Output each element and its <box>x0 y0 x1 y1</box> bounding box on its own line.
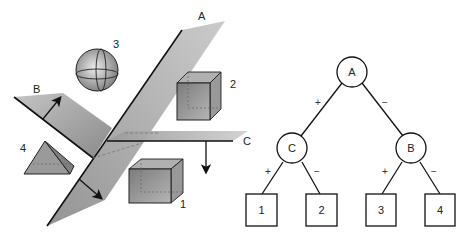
tree-node-c: C <box>277 133 307 163</box>
pyramid-object-4: 4 <box>20 141 74 174</box>
tree-leaf-4: 4 <box>425 194 455 226</box>
edge-b-4 <box>420 162 440 194</box>
edge-sign-b-3: + <box>382 166 388 177</box>
tree-leaf-2-label: 2 <box>318 204 324 216</box>
tree-node-a: A <box>337 57 367 87</box>
tree-node-a-label: A <box>348 66 356 78</box>
plane-a-label: A <box>198 10 206 22</box>
tree-leaf-1: 1 <box>246 194 277 226</box>
plane-c-label: C <box>243 135 251 147</box>
tree-leaf-3: 3 <box>366 194 396 226</box>
plane-b-label: B <box>33 83 40 95</box>
plane-b: B <box>14 83 112 158</box>
edge-sign-c-2: − <box>314 166 320 177</box>
edge-a-c <box>301 83 342 136</box>
object-2-label: 2 <box>230 78 236 90</box>
tree-node-c-label: C <box>288 142 296 154</box>
object-3-label: 3 <box>113 38 119 50</box>
tree-leaf-4-label: 4 <box>437 204 443 216</box>
bsp-tree: + − + − + − A C B 1 2 3 <box>246 57 455 226</box>
tree-node-b: B <box>396 133 426 163</box>
edge-sign-a-b: − <box>382 97 388 108</box>
tree-leaf-3-label: 3 <box>378 204 384 216</box>
cube-object-2: 2 <box>177 72 236 120</box>
object-1-label: 1 <box>180 198 186 210</box>
edge-sign-c-1: + <box>265 166 271 177</box>
tree-node-b-label: B <box>407 142 414 154</box>
bsp-diagram: B A C 3 2 4 <box>0 0 469 242</box>
edge-sign-b-4: − <box>431 166 437 177</box>
tree-leaf-2: 2 <box>306 194 337 226</box>
edge-sign-a-c: + <box>315 97 321 108</box>
tree-leaf-1-label: 1 <box>258 204 264 216</box>
edge-a-b <box>362 83 403 136</box>
cube-object-1: 1 <box>129 159 186 210</box>
sphere-object-3: 3 <box>76 38 119 91</box>
object-4-label: 4 <box>20 142 26 154</box>
